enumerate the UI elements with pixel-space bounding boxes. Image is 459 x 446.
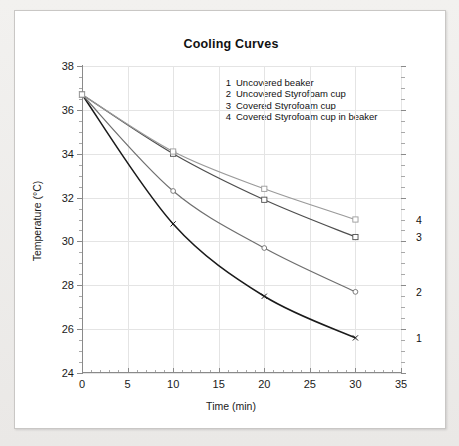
series-1 bbox=[79, 92, 358, 341]
y-tick-right-minor bbox=[401, 132, 405, 133]
data-point-marker bbox=[171, 149, 176, 154]
y-tick-right-minor bbox=[401, 263, 405, 264]
data-point-marker bbox=[353, 234, 358, 239]
y-tick-label: 28 bbox=[62, 279, 74, 291]
data-point-marker bbox=[171, 221, 176, 226]
x-tick-label: 35 bbox=[395, 378, 407, 390]
y-tick-right-minor bbox=[401, 340, 405, 341]
x-axis-title: Time (min) bbox=[15, 400, 447, 412]
y-axis-title: Temperature (°C) bbox=[31, 181, 43, 262]
y-tick-label: 26 bbox=[62, 323, 74, 335]
y-tick-right-minor bbox=[401, 296, 405, 297]
gridline-horizontal bbox=[82, 373, 401, 374]
y-tick-label: 30 bbox=[62, 235, 74, 247]
y-tick-right-minor bbox=[401, 99, 405, 100]
y-tick-right-minor bbox=[401, 88, 405, 89]
y-tick-right-major bbox=[401, 329, 406, 330]
series-curves bbox=[82, 66, 401, 373]
y-tick-right-major bbox=[401, 285, 406, 286]
x-tick-label: 20 bbox=[258, 378, 270, 390]
series-line-3 bbox=[82, 95, 355, 238]
x-tick-label: 30 bbox=[349, 378, 361, 390]
y-tick-right-minor bbox=[401, 77, 405, 78]
series-end-label-3: 3 bbox=[416, 231, 422, 243]
y-tick-label: 32 bbox=[62, 192, 74, 204]
y-tick-right-minor bbox=[401, 220, 405, 221]
y-tick-right-minor bbox=[401, 165, 405, 166]
data-point-marker bbox=[79, 92, 84, 97]
y-tick-right-minor bbox=[401, 252, 405, 253]
y-tick-right-minor bbox=[401, 307, 405, 308]
y-tick-right-minor bbox=[401, 230, 405, 231]
y-tick-right-major bbox=[401, 198, 406, 199]
plot-area: 242628303234363805101520253035 bbox=[82, 66, 401, 373]
y-tick-label: 24 bbox=[62, 367, 74, 379]
cooling-curves-chart: Cooling Curves Temperature (°C) Time (mi… bbox=[15, 11, 447, 430]
chart-card: Cooling Curves Temperature (°C) Time (mi… bbox=[14, 10, 446, 429]
x-tick-label: 0 bbox=[79, 378, 85, 390]
y-tick-label: 36 bbox=[62, 104, 74, 116]
series-line-1 bbox=[82, 95, 355, 338]
y-tick-right-minor bbox=[401, 362, 405, 363]
y-tick-right-major bbox=[401, 110, 406, 111]
y-tick-label: 38 bbox=[62, 60, 74, 72]
data-point-marker bbox=[262, 186, 267, 191]
y-tick-right-minor bbox=[401, 209, 405, 210]
x-tick-label: 15 bbox=[213, 378, 225, 390]
data-point-marker bbox=[262, 246, 267, 251]
y-tick-right-major bbox=[401, 373, 406, 374]
data-point-marker bbox=[262, 197, 267, 202]
y-tick-right-minor bbox=[401, 351, 405, 352]
y-tick-right-minor bbox=[401, 121, 405, 122]
page-root: Cooling Curves Temperature (°C) Time (mi… bbox=[0, 0, 459, 446]
x-tick-label: 10 bbox=[167, 378, 179, 390]
series-line-2 bbox=[82, 95, 355, 292]
y-tick-right-minor bbox=[401, 274, 405, 275]
y-tick-right-major bbox=[401, 66, 406, 67]
y-tick-right-minor bbox=[401, 187, 405, 188]
series-3 bbox=[79, 92, 358, 240]
series-end-label-2: 2 bbox=[416, 286, 422, 298]
series-end-label-4: 4 bbox=[416, 214, 422, 226]
series-end-label-1: 1 bbox=[416, 332, 422, 344]
data-point-marker bbox=[262, 294, 267, 299]
y-tick-right-minor bbox=[401, 176, 405, 177]
data-point-marker bbox=[171, 189, 176, 194]
y-tick-label: 34 bbox=[62, 148, 74, 160]
series-2 bbox=[80, 92, 358, 294]
chart-title: Cooling Curves bbox=[15, 37, 447, 51]
data-point-marker bbox=[353, 289, 358, 294]
y-tick-right-major bbox=[401, 241, 406, 242]
y-tick-right-major bbox=[401, 154, 406, 155]
data-point-marker bbox=[353, 217, 358, 222]
y-tick-right-minor bbox=[401, 318, 405, 319]
y-tick-right-minor bbox=[401, 143, 405, 144]
series-4 bbox=[79, 92, 358, 222]
x-tick-label: 25 bbox=[304, 378, 316, 390]
x-tick-label: 5 bbox=[125, 378, 131, 390]
